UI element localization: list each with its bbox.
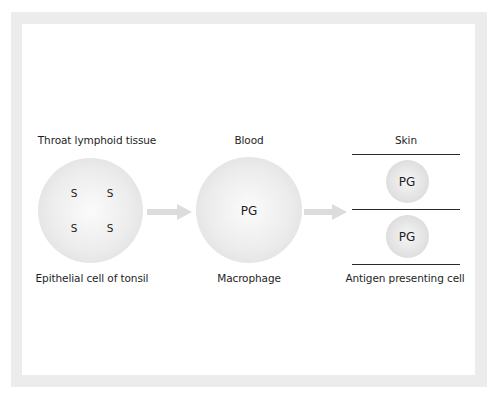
label-macrophage: Macrophage: [217, 272, 281, 285]
label-antigen-presenting-cell: Antigen presenting cell: [345, 272, 464, 285]
skin-layer-line: [352, 154, 460, 155]
marker-pg: PG: [241, 204, 258, 218]
label-epithelial-cell: Epithelial cell of tonsil: [36, 272, 149, 285]
marker-s: S: [107, 187, 114, 199]
marker-pg: PG: [399, 175, 416, 189]
label-skin: Skin: [395, 134, 417, 147]
label-blood: Blood: [234, 134, 263, 147]
marker-s: S: [107, 222, 114, 234]
epithelial-cell-circle: [38, 158, 143, 263]
marker-s: S: [71, 222, 78, 234]
label-throat-lymphoid-tissue: Throat lymphoid tissue: [38, 134, 156, 147]
marker-s: S: [71, 187, 78, 199]
arrow-right-icon: [147, 203, 193, 221]
skin-layer-line: [352, 209, 460, 210]
arrow-right-icon: [304, 203, 348, 221]
skin-layer-line: [352, 264, 460, 265]
marker-pg: PG: [399, 230, 416, 244]
